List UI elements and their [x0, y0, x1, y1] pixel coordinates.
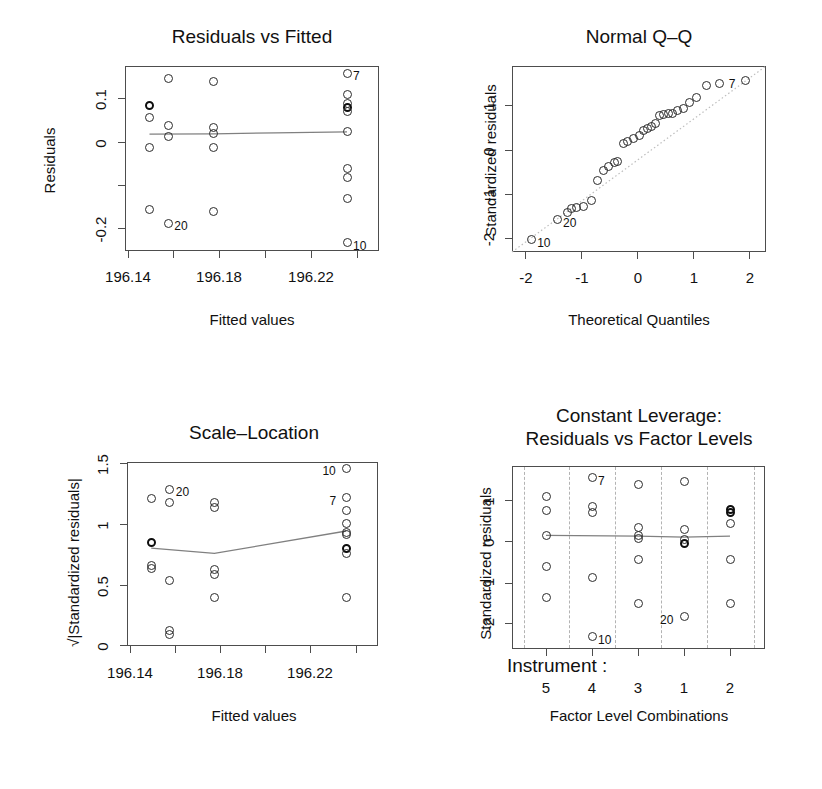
y-tick-label: -2 — [480, 224, 497, 256]
data-point — [209, 77, 218, 86]
y-tick-label: 0.1 — [92, 83, 109, 117]
y-tick — [120, 463, 127, 464]
data-point — [209, 143, 218, 152]
x-tick — [220, 646, 221, 653]
y-tick — [505, 105, 512, 106]
x-axis-label: Fitted values — [125, 311, 379, 328]
y-tick-label: 0 — [92, 127, 109, 161]
y-tick — [505, 583, 512, 584]
x-tick — [693, 252, 694, 259]
data-point — [342, 530, 351, 539]
plot-box — [512, 66, 766, 252]
data-point — [343, 107, 352, 116]
factor-separator — [524, 467, 526, 648]
x-tick-label: 196.22 — [271, 268, 351, 285]
y-tick-label: -1 — [480, 569, 497, 601]
y-tick — [505, 194, 512, 195]
point-label: 20 — [660, 613, 673, 627]
point-label: 10 — [537, 236, 550, 250]
panel-title-line1: Constant Leverage: — [512, 405, 766, 427]
x-tick — [581, 252, 582, 259]
data-point — [342, 519, 351, 528]
y-tick-label: -1 — [480, 180, 497, 212]
panel-title-line2: Residuals vs Factor Levels — [492, 428, 786, 450]
data-point — [542, 492, 551, 501]
factor-separator — [707, 467, 709, 648]
x-tick-label: 0 — [618, 269, 658, 286]
x-tick-label: 196.22 — [270, 664, 350, 681]
factor-level-label: 2 — [710, 679, 750, 696]
data-point — [680, 477, 689, 486]
y-tick — [118, 228, 125, 229]
x-tick-label: 2 — [730, 269, 770, 286]
data-point — [553, 215, 562, 224]
data-point — [634, 480, 643, 489]
point-label: 7 — [729, 77, 736, 91]
point-label: 20 — [563, 216, 576, 230]
y-tick — [505, 623, 512, 624]
data-point — [651, 119, 660, 128]
x-tick — [356, 646, 357, 653]
data-point — [147, 564, 156, 573]
data-point — [588, 632, 597, 641]
data-point — [343, 164, 352, 173]
data-point — [165, 485, 174, 494]
point-label: 7 — [353, 69, 360, 83]
data-point — [342, 593, 351, 602]
x-tick-label: 196.14 — [88, 268, 168, 285]
point-label: 10 — [353, 239, 366, 253]
y-tick-label: 0.5 — [94, 569, 111, 605]
y-tick-label: 1 — [94, 508, 111, 544]
y-tick — [505, 150, 512, 151]
x-tick-label: 196.18 — [180, 664, 260, 681]
data-point — [165, 498, 174, 507]
data-point — [692, 93, 701, 102]
data-point — [343, 90, 352, 99]
y-tick — [118, 98, 125, 99]
y-tick — [118, 185, 125, 186]
data-point — [164, 121, 173, 130]
y-tick — [120, 524, 127, 525]
y-tick-label: 0 — [480, 140, 497, 164]
data-point — [145, 205, 154, 214]
x-tick — [310, 646, 311, 653]
data-point — [726, 599, 735, 608]
x-tick — [219, 251, 220, 258]
panel-title: Scale–Location — [127, 422, 381, 444]
data-point — [527, 235, 536, 244]
point-label: 7 — [598, 474, 605, 488]
data-point — [726, 519, 735, 528]
figure-canvas: Residuals vs Fitted Residuals Fitted val… — [0, 0, 822, 789]
panel-title: Residuals vs Fitted — [125, 26, 379, 48]
x-tick — [175, 646, 176, 653]
x-tick — [525, 252, 526, 259]
data-point — [164, 219, 173, 228]
data-point — [342, 464, 351, 473]
data-point — [542, 506, 551, 515]
data-point — [680, 525, 689, 534]
x-tick — [128, 251, 129, 258]
y-tick — [120, 585, 127, 586]
factor-level-label: 5 — [526, 679, 566, 696]
data-point — [343, 194, 352, 203]
factor-level-label: 4 — [572, 679, 612, 696]
data-point — [593, 176, 602, 185]
y-tick-label: 1 — [480, 95, 497, 119]
data-point — [634, 555, 643, 564]
data-point — [579, 202, 588, 211]
point-label: 10 — [598, 633, 611, 647]
x-tick — [265, 251, 266, 258]
y-tick-label: -2 — [480, 609, 497, 641]
factor-separator — [754, 467, 756, 648]
x-tick — [311, 251, 312, 258]
x-tick-label: -1 — [562, 269, 602, 286]
data-point — [210, 593, 219, 602]
x-tick — [265, 646, 266, 653]
data-point — [343, 238, 352, 247]
data-point — [343, 173, 352, 182]
point-label: 10 — [322, 464, 335, 478]
y-tick-label: 1 — [480, 490, 497, 514]
data-point — [542, 562, 551, 571]
data-point — [209, 207, 218, 216]
y-axis-label: Standardized residuals — [477, 439, 494, 689]
